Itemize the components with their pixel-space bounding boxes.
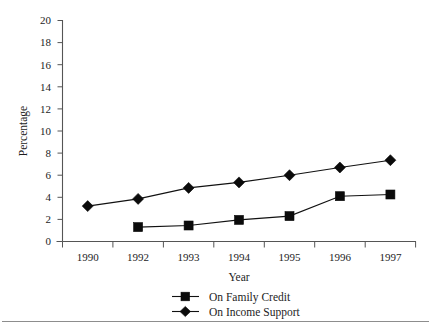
x-tick-label-1994: 1994 (228, 251, 251, 263)
family-credit-point-1997 (386, 190, 395, 199)
y-tick-label-20: 20 (40, 14, 52, 26)
family-credit-point-1992 (134, 223, 143, 232)
x-tick-label-1990: 1990 (77, 251, 100, 263)
chart-figure: 0 2 4 6 8 10 12 14 16 18 20 1990 1992 1 (0, 0, 431, 334)
y-axis-title: Percentage (17, 106, 30, 156)
y-tick-label-14: 14 (40, 81, 52, 93)
x-axis-title: Year (228, 271, 249, 283)
y-tick-label-2: 2 (46, 213, 52, 225)
x-tick-label-1993: 1993 (178, 251, 201, 263)
y-tick-label-8: 8 (46, 147, 52, 159)
x-tick-label-1995: 1995 (279, 251, 302, 263)
family-credit-point-1993 (184, 221, 193, 230)
y-tick-label-16: 16 (40, 59, 52, 71)
x-tick-label-1996: 1996 (329, 251, 352, 263)
y-tick-label-6: 6 (46, 169, 52, 181)
x-tick-label-1997: 1997 (379, 251, 402, 263)
legend-label-family-credit: On Family Credit (209, 291, 291, 304)
line-chart: 0 2 4 6 8 10 12 14 16 18 20 1990 1992 1 (0, 0, 431, 334)
y-tick-label-12: 12 (40, 103, 51, 115)
legend-label-income-support: On Income Support (209, 306, 301, 319)
family-credit-point-1996 (335, 192, 344, 201)
family-credit-point-1994 (235, 215, 244, 224)
y-tick-label-10: 10 (40, 125, 52, 137)
y-tick-label-0: 0 (46, 235, 52, 247)
square-marker-icon (181, 292, 190, 301)
y-tick-label-18: 18 (40, 36, 52, 48)
x-tick-label-1992: 1992 (127, 251, 149, 263)
family-credit-point-1995 (285, 212, 294, 221)
chart-background (0, 0, 431, 334)
y-tick-label-4: 4 (46, 191, 52, 203)
